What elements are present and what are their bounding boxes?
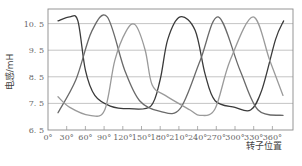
x-tick-label: 180° xyxy=(151,133,170,142)
x-axis: 0°30°60°90°120°150°180°210°240°270°300°3… xyxy=(43,126,282,142)
x-tick-label: 120° xyxy=(113,133,132,142)
y-axis: 10. 59. 58. 57. 56. 5 xyxy=(24,20,44,135)
x-axis-title: 转子位置 xyxy=(246,140,282,151)
y-tick-label: 7. 5 xyxy=(29,99,44,108)
x-tick-label: 90° xyxy=(97,133,111,142)
y-tick-label: 8. 5 xyxy=(29,73,44,82)
inductance-chart: 0°30°60°90°120°150°180°210°240°270°300°3… xyxy=(0,0,302,166)
x-tick-label: 150° xyxy=(132,133,151,142)
x-tick-label: 270° xyxy=(207,133,226,142)
x-tick-label: 210° xyxy=(169,133,188,142)
y-tick-label: 9. 5 xyxy=(29,46,44,55)
y-axis-title: 电感/mH xyxy=(4,54,15,91)
y-tick-label: 10. 5 xyxy=(24,20,44,29)
series-lines xyxy=(58,15,284,116)
x-tick-label: 60° xyxy=(78,133,92,142)
x-tick-label: 30° xyxy=(60,133,74,142)
y-tick-label: 6. 5 xyxy=(29,126,44,135)
x-tick-label: 240° xyxy=(188,133,207,142)
x-tick-label: 0° xyxy=(43,133,52,142)
x-tick-label: 300° xyxy=(225,133,244,142)
